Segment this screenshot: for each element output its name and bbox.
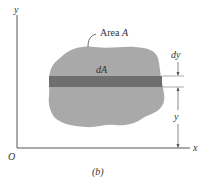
- origin-label: O: [8, 151, 15, 162]
- y-arrowhead-top: [177, 87, 180, 91]
- dy-arrowhead-top: [177, 72, 180, 76]
- x-axis-label: x: [192, 142, 198, 153]
- area-label: Area A: [100, 27, 129, 38]
- y-distance-label: y: [173, 111, 179, 122]
- element-label: dA: [96, 64, 108, 75]
- area-leader-line: [88, 34, 96, 47]
- element-strip: [49, 76, 162, 87]
- area-moment-diagram: y x O Area A dA dy y (b): [0, 0, 210, 180]
- dy-label: dy: [171, 49, 181, 60]
- figure-caption: (b): [92, 166, 104, 178]
- y-arrowhead-bottom: [177, 144, 180, 148]
- y-axis-label: y: [13, 4, 19, 15]
